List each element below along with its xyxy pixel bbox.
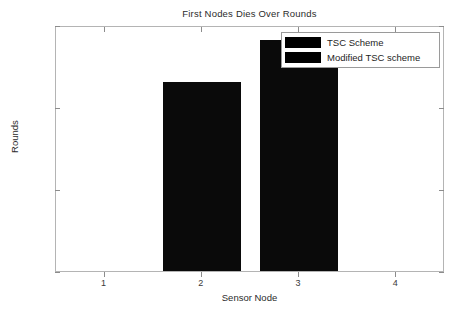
legend-swatch-icon-2 [285,52,321,63]
y-tick-100 [55,108,60,109]
x-axis-label: Sensor Node [55,292,444,303]
y-tick-right-150 [439,26,444,27]
chart-legend: TSC SchemeModified TSC scheme [281,32,440,68]
x-tick-label-3: 3 [283,278,313,288]
legend-item-2: Modified TSC scheme [285,50,436,65]
x-tick-top-1 [104,27,105,32]
bar-2 [163,82,241,271]
y-tick-50 [55,190,60,191]
y-axis-label: Rounds [9,102,20,172]
legend-swatch-icon-1 [285,37,321,48]
x-tick-top-2 [201,27,202,32]
x-tick-2 [201,272,202,277]
x-tick-4 [395,272,396,277]
x-tick-label-2: 2 [186,278,216,288]
legend-item-1: TSC Scheme [285,35,436,50]
figure-canvas: First Nodes Dies Over Rounds 050100150 1… [0,0,457,310]
y-tick-right-50 [439,190,444,191]
legend-label-2: Modified TSC scheme [327,52,420,63]
y-tick-right-0 [439,272,444,273]
x-tick-3 [298,272,299,277]
x-tick-1 [104,272,105,277]
x-tick-label-1: 1 [89,278,119,288]
y-tick-right-100 [439,108,444,109]
bar-3 [260,40,338,271]
y-tick-150 [55,26,60,27]
chart-title: First Nodes Dies Over Rounds [55,8,444,19]
legend-label-1: TSC Scheme [327,37,384,48]
x-tick-label-4: 4 [380,278,410,288]
y-tick-0 [55,272,60,273]
